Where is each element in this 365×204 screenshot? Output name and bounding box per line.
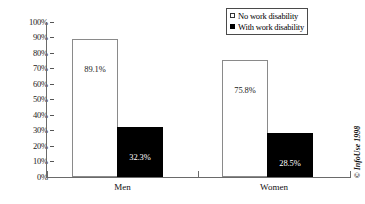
legend-item-no-work-disability[interactable]: No work disability [230, 10, 304, 21]
bar-value-label: 28.5% [268, 158, 312, 168]
filled-square-icon [230, 24, 235, 29]
bar-value-label: 75.8% [223, 85, 267, 95]
bar-men-with-work-disability[interactable]: 32.3% [117, 127, 163, 177]
legend-label: With work disability [238, 22, 304, 32]
legend[interactable]: No work disability With work disability [226, 8, 308, 35]
x-axis-separator-tick [47, 171, 48, 178]
hollow-square-icon [230, 13, 235, 18]
copyright-notice: © InfoUse 1998 [350, 112, 364, 192]
bar-men-no-work-disability[interactable]: 89.1% [72, 39, 118, 177]
bar-chart: 100% 90% 80% 70% 60% 50% 40% 30% 20% 10%… [0, 0, 365, 204]
bar-value-label: 89.1% [73, 64, 117, 74]
x-axis-category-women: Women [198, 182, 350, 193]
x-axis-separator-tick [198, 171, 199, 178]
legend-label: No work disability [238, 11, 298, 21]
bar-value-label: 32.3% [118, 152, 162, 162]
bar-women-with-work-disability[interactable]: 28.5% [267, 133, 313, 177]
plot-area: 89.1% 32.3% 75.8% 28.5% [47, 22, 351, 177]
bar-women-no-work-disability[interactable]: 75.8% [222, 60, 268, 178]
x-axis-category-men: Men [47, 182, 198, 193]
legend-item-with-work-disability[interactable]: With work disability [230, 21, 304, 32]
copyright-text: © InfoUse 1998 [353, 126, 362, 179]
